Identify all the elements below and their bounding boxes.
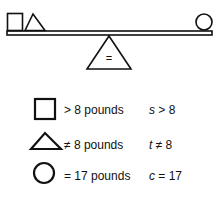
beam [7,31,212,35]
seesaw-diagram: = [0,0,223,197]
legend-triangle-icon [31,133,61,149]
fulcrum-symbol: = [106,52,112,64]
legend-label: ≠ 8 pounds [64,138,123,152]
legend-label: = 17 pounds [64,169,130,183]
legend-circle-icon [34,163,54,183]
legend-expression: s > 8 [149,103,175,117]
triangle-weight [25,14,45,31]
square-weight [8,14,23,31]
legend-expression: t ≠ 8 [149,138,172,152]
legend-square-icon [35,99,55,119]
circle-weight [196,14,212,30]
legend-label: > 8 pounds [64,103,124,117]
legend-expression: c = 17 [149,169,182,183]
